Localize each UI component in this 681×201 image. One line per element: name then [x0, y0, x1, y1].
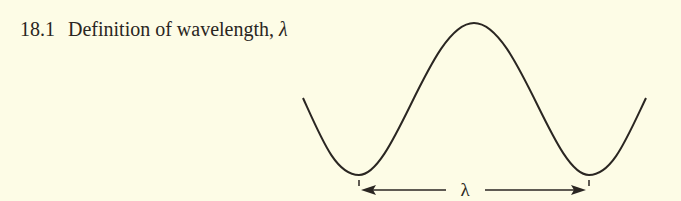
wave-diagram: λ [0, 0, 681, 201]
wavelength-arrow [361, 185, 586, 195]
sine-wave [303, 23, 646, 175]
wavelength-label: λ [460, 179, 470, 200]
